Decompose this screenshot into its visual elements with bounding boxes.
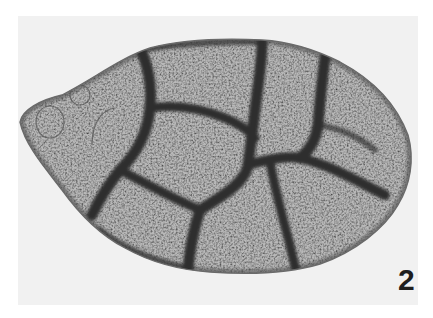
panel-label: 2 xyxy=(398,265,415,295)
specimen-image xyxy=(0,0,433,318)
figure-panel: 2 xyxy=(0,0,433,318)
specimen-body xyxy=(0,0,433,318)
